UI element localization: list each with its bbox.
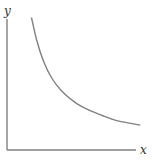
series-layer bbox=[31, 18, 140, 126]
chart: y x bbox=[0, 0, 152, 163]
series-line-0 bbox=[31, 18, 140, 126]
y-axis-label: y bbox=[3, 4, 11, 18]
x-axis-label: x bbox=[140, 143, 147, 157]
